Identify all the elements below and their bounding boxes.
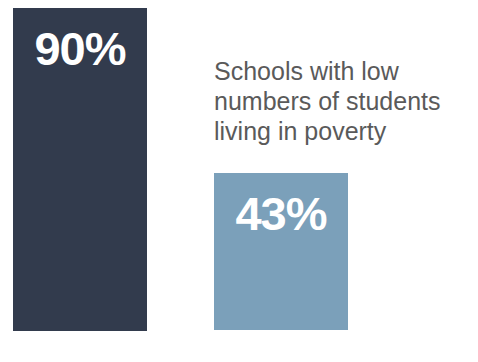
caption-line-2: numbers of students: [214, 86, 478, 116]
bar-primary-value-label: 90%: [13, 25, 147, 72]
bar-primary: 90%: [13, 8, 147, 331]
bar-secondary: 43%: [214, 173, 348, 330]
caption-line-3: living in poverty: [214, 116, 478, 146]
caption-text: Schools with low numbers of students liv…: [214, 56, 478, 146]
bar-secondary-value-label: 43%: [214, 190, 348, 237]
caption-line-1: Schools with low: [214, 56, 478, 86]
infographic-container: 90% Schools with low numbers of students…: [0, 0, 478, 362]
